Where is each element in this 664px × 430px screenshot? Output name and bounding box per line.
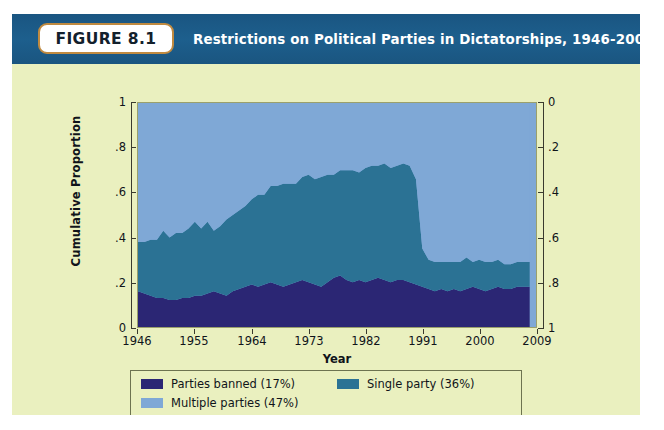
- y-axis-right-tick-0: 0: [548, 95, 588, 109]
- legend-label-parties-banned: Parties banned (17%): [171, 377, 295, 391]
- x-axis-tick-1973: 1973: [279, 334, 339, 348]
- figure-root: FIGURE 8.1 Restrictions on Political Par…: [0, 0, 664, 430]
- y-axis-right-tickmark-08: [538, 283, 543, 284]
- y-axis-left-title: Cumulative Proportion: [69, 111, 83, 271]
- legend-item-single-party: Single party (36%): [337, 377, 475, 391]
- legend-swatch-single-party: [337, 379, 359, 389]
- plot-area: [137, 102, 537, 328]
- y-axis-left-tick-1: 1: [86, 95, 126, 109]
- chart-legend: Parties banned (17%) Single party (36%) …: [130, 370, 522, 415]
- y-axis-left-tickmark-02: [131, 283, 136, 284]
- figure-number-label: FIGURE 8.1: [55, 30, 156, 48]
- legend-label-multiple-parties: Multiple parties (47%): [171, 396, 298, 410]
- x-axis-tick-2009: 2009: [507, 334, 567, 348]
- figure-title: Restrictions on Political Parties in Dic…: [193, 14, 640, 64]
- x-axis-tick-1991: 1991: [393, 334, 453, 348]
- legend-label-single-party: Single party (36%): [367, 377, 475, 391]
- y-axis-left-tick-06: .6: [86, 185, 126, 199]
- legend-row-1: Parties banned (17%) Single party (36%): [141, 377, 511, 391]
- y-axis-left-tickmark-06: [131, 192, 136, 193]
- y-axis-left-tick-0: 0: [86, 321, 126, 335]
- y-axis-left-tickmark-04: [131, 238, 136, 239]
- y-axis-right-line: [543, 102, 544, 329]
- y-axis-left-tickmark-08: [131, 147, 136, 148]
- legend-item-parties-banned: Parties banned (17%): [141, 377, 337, 391]
- x-axis-tick-1982: 1982: [336, 334, 396, 348]
- y-axis-left-line: [131, 102, 132, 329]
- chart-area: Cumulative Proportion 1 .8 .6 .4 .2 0 0 …: [12, 64, 640, 415]
- figure-header-band: FIGURE 8.1 Restrictions on Political Par…: [12, 14, 640, 64]
- stacked-area-plot: [138, 103, 536, 327]
- y-axis-right-tick-04: .4: [548, 185, 588, 199]
- figure-number-badge: FIGURE 8.1: [38, 23, 174, 54]
- y-axis-right-tick-06: .6: [548, 231, 588, 245]
- y-axis-right-tick-1: 1: [548, 321, 588, 335]
- y-axis-right-tick-02: .2: [548, 140, 588, 154]
- y-axis-left-tickmark-0: [131, 328, 136, 329]
- y-axis-left-tick-02: .2: [86, 276, 126, 290]
- y-axis-left-tickmark-1: [131, 102, 136, 103]
- x-axis-tick-2000: 2000: [450, 334, 510, 348]
- x-axis-tick-1964: 1964: [222, 334, 282, 348]
- figure-card: FIGURE 8.1 Restrictions on Political Par…: [12, 14, 640, 415]
- y-axis-left-tick-08: .8: [86, 140, 126, 154]
- y-axis-right-tickmark-04: [538, 192, 543, 193]
- legend-swatch-parties-banned: [141, 379, 163, 389]
- y-axis-right-tick-08: .8: [548, 276, 588, 290]
- y-axis-right-tickmark-06: [538, 238, 543, 239]
- y-axis-right-tickmark-02: [538, 147, 543, 148]
- legend-row-2: Multiple parties (47%): [141, 396, 511, 410]
- x-axis-tick-1946: 1946: [107, 334, 167, 348]
- y-axis-right-tickmark-0: [538, 102, 543, 103]
- y-axis-right-tickmark-1: [538, 328, 543, 329]
- x-axis-title: Year: [137, 352, 537, 366]
- x-axis-tick-1955: 1955: [164, 334, 224, 348]
- legend-swatch-multiple-parties: [141, 398, 163, 408]
- y-axis-left-tick-04: .4: [86, 231, 126, 245]
- legend-item-multiple-parties: Multiple parties (47%): [141, 396, 337, 410]
